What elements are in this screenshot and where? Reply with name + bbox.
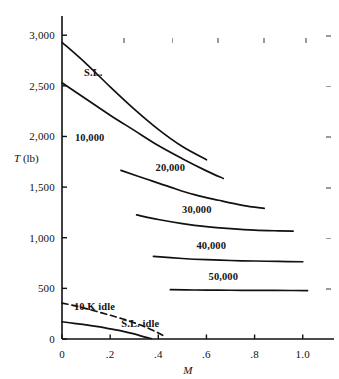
curve-40-000 (153, 256, 302, 261)
top-edge-tick (217, 38, 219, 43)
curve-group (62, 42, 308, 338)
curve-label-40-000: 40,000 (197, 240, 226, 251)
y-tick-label: 1,500 (29, 181, 55, 193)
y-tick-label: 1,000 (29, 232, 55, 244)
right-edge-tick (326, 187, 331, 189)
curve-label-30-000: 30,000 (182, 203, 211, 214)
curve-10-000 (62, 83, 223, 179)
x-tick-label: 1.0 (296, 348, 310, 360)
x-axis-title-symbol: M (183, 364, 192, 376)
top-edge-tick (263, 38, 265, 43)
top-edge-tick (305, 38, 307, 43)
y-tick-label: 2,500 (29, 80, 55, 92)
y-axis-title-unit: (lb) (23, 152, 39, 164)
y-tick-label: 0 (49, 333, 55, 345)
y-axis-title-symbol: T (14, 152, 20, 164)
curve-50-000 (170, 290, 307, 291)
x-tick-label: .2 (106, 348, 115, 360)
curve-30-000 (137, 215, 293, 231)
top-edge-tick (172, 38, 174, 43)
y-tick-label: 2,000 (29, 130, 55, 142)
right-edge-tick (326, 238, 331, 240)
curve-label-s-l: S.L. (84, 66, 103, 77)
x-axis-title: M (183, 364, 192, 376)
axis-ticks (62, 35, 303, 339)
curve-label-10-000: 10,000 (75, 132, 104, 143)
curve-label-50-000: 50,000 (209, 270, 238, 281)
x-tick-label: 0 (59, 348, 65, 360)
top-edge-tick (123, 38, 125, 43)
y-tick-label: 500 (38, 282, 55, 294)
x-tick-label: .4 (154, 348, 163, 360)
right-edge-tick (326, 136, 331, 138)
right-edge-tick (326, 288, 331, 290)
y-tick-label: 3,000 (29, 29, 55, 41)
y-axis-title: T (lb) (14, 152, 39, 164)
curve-label-10-k-idle: 10 K idle (74, 300, 115, 311)
right-edge-tick (326, 35, 331, 37)
x-tick-label: .6 (202, 348, 211, 360)
right-edge-tick (326, 86, 331, 88)
thrust-vs-mach-chart: 05001,0001,5002,0002,5003,000 0.2.4.6.81… (0, 0, 339, 379)
x-tick-label: .8 (250, 348, 259, 360)
curve-label-s-l-idle: S.L. idle (121, 317, 159, 328)
curve-label-20-000: 20,000 (156, 161, 185, 172)
